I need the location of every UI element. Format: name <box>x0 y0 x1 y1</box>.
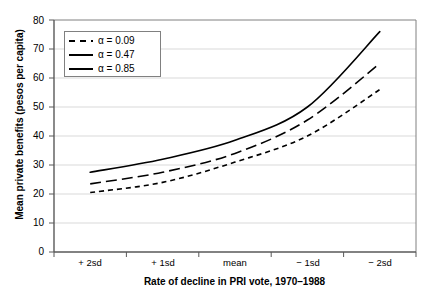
legend-label-alpha-009: α = 0.09 <box>98 34 135 48</box>
legend-item-alpha-047: α = 0.47 <box>69 48 159 62</box>
legend-item-alpha-085: α = 0.85 <box>69 62 159 76</box>
y-axis-ticks <box>49 20 54 252</box>
legend-swatch-long-dash <box>69 54 93 56</box>
legend-item-alpha-009: α = 0.09 <box>69 34 159 48</box>
series-alpha-047 <box>90 64 380 184</box>
chart-figure: Mean private benefits (pesos per capita)… <box>0 0 441 299</box>
chart-legend: α = 0.09 α = 0.47 α = 0.85 <box>64 31 161 77</box>
legend-label-alpha-085: α = 0.85 <box>98 62 135 76</box>
legend-label-alpha-047: α = 0.47 <box>98 48 135 62</box>
x-axis-ticks <box>54 252 416 257</box>
legend-swatch-solid <box>69 68 93 70</box>
legend-swatch-short-dash <box>69 40 93 42</box>
